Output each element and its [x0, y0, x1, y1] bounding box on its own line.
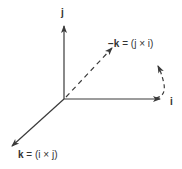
neg-k-axis	[66, 48, 112, 97]
neg-k-label-bold: −k	[108, 38, 119, 49]
neg-k-axis-label: −k = (j × i)	[108, 39, 153, 49]
j-axis-label: j	[61, 8, 64, 18]
neg-k-label-rest: = (j × i)	[119, 38, 153, 49]
k-label-rest: = (i × j)	[24, 149, 58, 160]
rotation-arrow	[156, 66, 164, 98]
k-axis	[12, 99, 64, 146]
cross-product-axes-diagram	[0, 0, 182, 169]
i-axis-label: i	[170, 97, 173, 107]
k-axis-label: k = (i × j)	[18, 150, 57, 160]
